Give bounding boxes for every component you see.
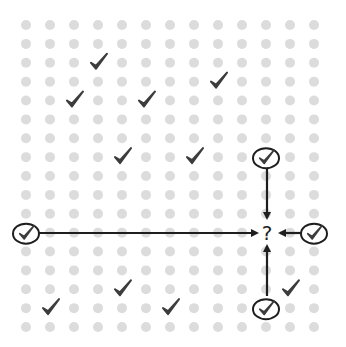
grid-dot: [309, 77, 319, 87]
grid-dot: [309, 39, 319, 49]
grid-dot: [213, 133, 223, 143]
grid-dot: [165, 77, 175, 87]
grid-dot: [285, 96, 295, 106]
grid-dot: [237, 114, 247, 124]
grid-dot: [285, 152, 295, 162]
grid-dot: [237, 247, 247, 257]
grid-dot: [93, 265, 103, 275]
grid-dot: [141, 209, 151, 219]
grid-dot: [117, 247, 127, 257]
grid-dot: [45, 322, 55, 332]
grid-dot: [309, 171, 319, 181]
grid-dot: [237, 152, 247, 162]
grid-dot: [21, 133, 31, 143]
grid-dot: [45, 265, 55, 275]
grid-dot: [261, 20, 271, 30]
grid-dot: [285, 114, 295, 124]
grid-dot: [117, 58, 127, 68]
grid-dot: [117, 171, 127, 181]
grid-dot: [45, 39, 55, 49]
grid-dot: [93, 190, 103, 200]
grid-dot: [309, 265, 319, 275]
grid-dot: [69, 303, 79, 313]
grid-dot: [309, 58, 319, 68]
grid-dot: [309, 152, 319, 162]
question-mark-target: ?: [262, 221, 273, 245]
grid-dot: [285, 190, 295, 200]
grid-dot: [93, 77, 103, 87]
dot-grid: [21, 20, 319, 332]
grid-dot: [21, 303, 31, 313]
grid-dot: [213, 247, 223, 257]
grid-dot: [237, 20, 247, 30]
grid-dot: [165, 114, 175, 124]
grid-dot: [213, 265, 223, 275]
grid-dot: [93, 284, 103, 294]
grid-dot: [165, 284, 175, 294]
grid-dot: [309, 133, 319, 143]
grid-dot: [45, 152, 55, 162]
grid-dot: [21, 265, 31, 275]
grid-dot: [165, 247, 175, 257]
checkmark-icon: [67, 92, 83, 107]
grid-dot: [117, 20, 127, 30]
grid-dot: [117, 133, 127, 143]
grid-dot: [285, 303, 295, 313]
grid-dot: [237, 190, 247, 200]
grid-dot: [141, 114, 151, 124]
grid-dot: [165, 322, 175, 332]
checkmark-icon: [163, 299, 179, 314]
grid-dot: [45, 114, 55, 124]
grid-dot: [261, 39, 271, 49]
grid-dot: [309, 284, 319, 294]
circled-checkmark-bottom: [253, 299, 279, 319]
grid-dot: [45, 20, 55, 30]
grid-dot: [93, 322, 103, 332]
grid-dot: [213, 171, 223, 181]
grid-dot: [141, 247, 151, 257]
grid-dot: [117, 77, 127, 87]
grid-dot: [165, 209, 175, 219]
grid-dot: [237, 265, 247, 275]
grid-dot: [189, 190, 199, 200]
grid-dot: [93, 20, 103, 30]
grid-dot: [69, 322, 79, 332]
grid-dot: [237, 209, 247, 219]
grid-dot: [69, 77, 79, 87]
grid-dot: [309, 20, 319, 30]
grid-dot: [165, 58, 175, 68]
grid-dot: [237, 284, 247, 294]
grid-dot: [21, 190, 31, 200]
grid-dot: [141, 303, 151, 313]
circled-checkmark-right: [301, 224, 327, 244]
grid-dot: [189, 114, 199, 124]
grid-dot: [21, 96, 31, 106]
grid-dot: [117, 209, 127, 219]
grid-dot: [69, 58, 79, 68]
grid-dot: [69, 39, 79, 49]
grid-dot: [69, 209, 79, 219]
grid-dot: [69, 247, 79, 257]
grid-dot: [165, 265, 175, 275]
grid-dot: [45, 133, 55, 143]
grid-dot: [285, 39, 295, 49]
grid-dot: [165, 133, 175, 143]
grid-dot: [213, 209, 223, 219]
grid-dot: [237, 171, 247, 181]
grid-dot: [21, 152, 31, 162]
grid-dot: [213, 303, 223, 313]
grid-dot: [141, 265, 151, 275]
grid-dot: [93, 247, 103, 257]
grid-diagram: ?: [0, 0, 346, 347]
grid-dot: [69, 133, 79, 143]
grid-dot: [45, 209, 55, 219]
grid-dot: [237, 322, 247, 332]
grid-dot: [189, 303, 199, 313]
grid-dot: [93, 114, 103, 124]
grid-dot: [141, 284, 151, 294]
grid-dot: [189, 284, 199, 294]
grid-dot: [21, 171, 31, 181]
grid-dot: [285, 58, 295, 68]
grid-dot: [189, 209, 199, 219]
diagram-canvas: ?: [0, 0, 346, 347]
